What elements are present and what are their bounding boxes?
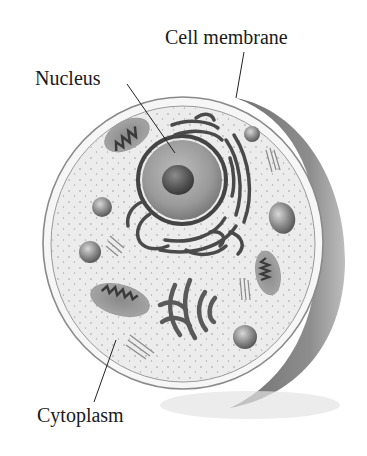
label-cell-membrane: Cell membrane [165, 27, 288, 47]
nucleolus [162, 165, 194, 195]
nucleus [138, 136, 226, 224]
vesicle [233, 325, 257, 349]
vesicle [79, 241, 101, 263]
cell-membrane-leader [236, 52, 244, 98]
vesicle [92, 197, 112, 217]
label-cytoplasm: Cytoplasm [37, 405, 124, 425]
label-nucleus: Nucleus [35, 68, 101, 88]
vesicle [244, 126, 260, 142]
